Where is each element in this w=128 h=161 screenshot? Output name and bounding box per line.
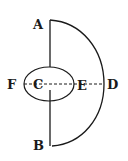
label-d: D bbox=[107, 77, 118, 92]
label-a: A bbox=[32, 17, 44, 32]
label-f: F bbox=[7, 77, 17, 92]
label-b: B bbox=[33, 138, 44, 153]
label-e: E bbox=[77, 78, 87, 93]
label-c: C bbox=[33, 77, 43, 92]
geometric-diagram: A B C D E F bbox=[0, 0, 128, 161]
